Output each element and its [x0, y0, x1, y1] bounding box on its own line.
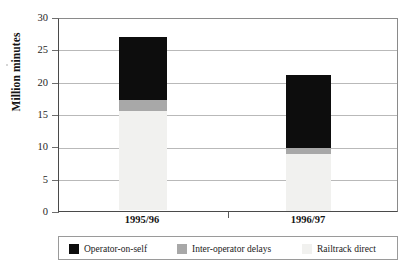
legend-item-railtrack-direct[interactable]: Railtrack direct [302, 241, 376, 257]
bar-1995-96[interactable] [119, 37, 167, 210]
bar-segment-railtrack-direct-1995-96 [119, 111, 167, 210]
legend-item-inter-operator-delays[interactable]: Inter-operator delays [177, 241, 271, 257]
stacked-bar-chart: Million minutes 30 25 20 15 10 5 0 1995 [0, 0, 409, 274]
x-tick-label-1995-96: 1995/96 [97, 214, 187, 225]
y-tick-label-5: 5 [22, 174, 48, 185]
legend-label-operator-on-self: Operator-on-self [84, 244, 147, 254]
legend-label-railtrack-direct: Railtrack direct [317, 244, 376, 254]
legend: Operator-on-self Inter-operator delays R… [58, 236, 398, 260]
gridline-20 [59, 83, 397, 84]
bar-segment-operator-on-self-1995-96 [119, 37, 167, 100]
scan-artifact-speck [6, 64, 8, 66]
gray-swatch-icon [177, 244, 187, 254]
y-tick-label-25: 25 [22, 44, 48, 55]
y-tick-label-10: 10 [22, 141, 48, 152]
y-tick-label-15: 15 [22, 109, 48, 120]
bar-1996-97[interactable] [286, 75, 331, 211]
y-tick-label-20: 20 [22, 77, 48, 88]
gridline-15 [59, 115, 397, 116]
legend-label-inter-operator-delays: Inter-operator delays [192, 244, 271, 254]
light-swatch-icon [302, 244, 312, 254]
y-tick-0 [52, 212, 59, 213]
x-tick-label-1996-97: 1996/97 [263, 214, 353, 225]
bar-segment-inter-operator-delays-1995-96 [119, 100, 167, 111]
gridline-5 [59, 180, 397, 181]
y-tick-label-0: 0 [22, 206, 48, 217]
plot-area [58, 18, 398, 212]
bar-segment-operator-on-self-1996-97 [286, 75, 331, 148]
bar-segment-railtrack-direct-1996-97 [286, 154, 331, 211]
gridline-10 [59, 148, 397, 149]
legend-item-operator-on-self[interactable]: Operator-on-self [69, 241, 147, 257]
x-tick-separator [228, 212, 229, 218]
gridline-25 [59, 50, 397, 51]
black-swatch-icon [69, 244, 79, 254]
y-tick-label-30: 30 [22, 12, 48, 23]
